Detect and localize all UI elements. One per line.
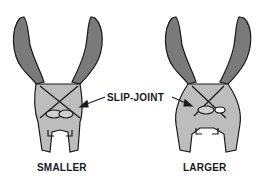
left-jaw-body (35, 84, 83, 152)
left-handle-a (13, 17, 44, 84)
right-handle-a (165, 17, 196, 84)
left-handle-b (72, 17, 102, 84)
larger-pliers (165, 17, 250, 152)
larger-caption: LARGER (183, 162, 226, 173)
slip-joint-callout: SLIP-JOINT (107, 92, 164, 103)
pliers-illustration (0, 0, 257, 182)
smaller-caption: SMALLER (37, 162, 87, 173)
smaller-pliers (13, 17, 102, 152)
right-jaw-body (176, 84, 241, 152)
right-handle-b (220, 17, 251, 84)
